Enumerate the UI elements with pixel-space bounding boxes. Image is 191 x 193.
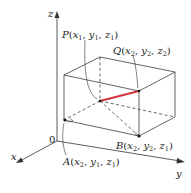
x-axis-label: x: [11, 151, 17, 162]
origin-label: 0: [49, 134, 55, 145]
point-p-dot: [99, 100, 102, 103]
point-b-dot: [137, 134, 140, 137]
x-axis-arrow-icon: [16, 158, 24, 164]
point-q-dot: [138, 90, 141, 93]
distance-diagram: z x y 0 P(x1, y1, z1) Q(x2, y2, z2) B(x2…: [0, 0, 191, 193]
z-axis-label: z: [47, 8, 54, 19]
z-axis-arrow-icon: [55, 11, 60, 18]
y-axis-label: y: [175, 168, 182, 179]
point-a-dot: [63, 118, 66, 121]
point-p-label: P(x1, y1, z1): [61, 29, 118, 42]
point-a-label: A(x2, y1, z1): [62, 156, 120, 169]
segment-pq: [100, 91, 139, 101]
point-q-label: Q(x2, y2, z2): [113, 45, 171, 58]
point-b-label: B(x2, y2, z1): [115, 140, 173, 153]
y-axis-arrow-icon: [177, 158, 186, 164]
